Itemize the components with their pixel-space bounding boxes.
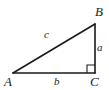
vertex-label-c: C xyxy=(90,75,99,88)
side-label-b: b xyxy=(54,76,60,87)
right-angle-marker-icon xyxy=(87,65,95,73)
vertex-label-a: A xyxy=(4,75,12,88)
side-c-line xyxy=(13,24,95,73)
side-label-a: a xyxy=(97,42,103,53)
right-triangle-figure: A B C c a b xyxy=(0,0,109,90)
side-label-c: c xyxy=(44,29,49,40)
vertex-label-b: B xyxy=(95,5,103,18)
